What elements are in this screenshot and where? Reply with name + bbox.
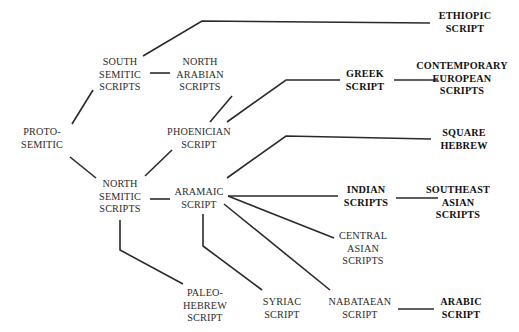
- node-label-line: SCRIPT: [437, 309, 485, 322]
- node-label-line: PROTO-: [14, 126, 70, 139]
- node-label-line: SOUTHEAST: [423, 184, 493, 197]
- node-proto-semitic: PROTO-SEMITIC: [14, 126, 70, 151]
- node-label-line: NORTH: [93, 178, 147, 191]
- node-label-line: HEBREW: [433, 140, 495, 153]
- node-label-line: SCRIPT: [180, 312, 230, 325]
- node-label-line: SEMITIC: [14, 139, 70, 152]
- edge-aramaic-to-square-hebrew: [227, 136, 431, 178]
- node-aramaic-script: ARAMAICSCRIPT: [172, 186, 226, 211]
- node-square-hebrew: SQUAREHEBREW: [433, 127, 495, 152]
- node-south-semitic-scripts: SOUTHSEMITICSCRIPTS: [93, 56, 147, 94]
- node-label-line: ARAMAIC: [172, 186, 226, 199]
- node-label-line: SCRIPTS: [93, 203, 147, 216]
- script-genealogy-diagram: PROTO-SEMITICSOUTHSEMITICSCRIPTSNORTHARA…: [0, 0, 519, 332]
- edge-north-arabian-to-phoenician: [210, 96, 232, 122]
- node-north-arabian-scripts: NORTHARABIANSCRIPTS: [172, 56, 228, 94]
- node-label-line: PHOENICIAN: [163, 126, 235, 139]
- edge-aramaic-to-nabataean: [224, 204, 330, 290]
- edge-phoenician-to-greek: [227, 80, 340, 122]
- node-label-line: SCRIPT: [432, 23, 498, 36]
- node-label-line: SCRIPT: [163, 139, 235, 152]
- node-arabic-script: ARABICSCRIPT: [437, 296, 485, 321]
- node-label-line: SCRIPTS: [172, 81, 228, 94]
- node-label-line: SCRIPTS: [423, 209, 493, 222]
- node-label-line: SEMITIC: [93, 69, 147, 82]
- edge-north-semitic-to-phoenician: [145, 150, 172, 176]
- node-ethiopic-script: ETHIOPICSCRIPT: [432, 10, 498, 35]
- node-label-line: CENTRAL: [335, 230, 391, 243]
- node-label-line: SOUTH: [93, 56, 147, 69]
- edge-aramaic-to-central-asian: [228, 196, 334, 238]
- node-label-line: NABATAEAN: [327, 296, 393, 309]
- node-label-line: PALEO-: [180, 287, 230, 300]
- node-label-line: ASIAN: [423, 197, 493, 210]
- node-paleo-hebrew-script: PALEO-HEBREWSCRIPT: [180, 287, 230, 325]
- node-label-line: SCRIPT: [341, 81, 389, 94]
- connector-layer: [0, 0, 519, 332]
- node-label-line: INDIAN: [340, 184, 392, 197]
- node-north-semitic-scripts: NORTHSEMITICSCRIPTS: [93, 178, 147, 216]
- node-label-line: SYRIAC: [259, 296, 305, 309]
- node-label-line: CONTEMPORARY: [412, 60, 512, 73]
- edge-north-semitic-to-paleo-hebrew: [120, 220, 183, 284]
- node-label-line: SCRIPT: [172, 199, 226, 212]
- node-greek-script: GREEKSCRIPT: [341, 68, 389, 93]
- node-label-line: SCRIPT: [327, 309, 393, 322]
- node-label-line: ETHIOPIC: [432, 10, 498, 23]
- node-label-line: EUROPEAN: [412, 73, 512, 86]
- node-label-line: ARABIC: [437, 296, 485, 309]
- node-label-line: SCRIPTS: [93, 81, 147, 94]
- edge-south-semitic-to-ethiopic: [143, 21, 430, 56]
- node-label-line: GREEK: [341, 68, 389, 81]
- node-phoenician-script: PHOENICIANSCRIPT: [163, 126, 235, 151]
- node-label-line: SCRIPTS: [340, 197, 392, 210]
- edge-aramaic-to-syriac: [203, 214, 262, 290]
- node-label-line: SCRIPTS: [335, 255, 391, 268]
- node-syriac-script: SYRIACSCRIPT: [259, 296, 305, 321]
- node-label-line: SCRIPTS: [412, 85, 512, 98]
- edge-proto-to-south-semitic: [72, 90, 93, 124]
- node-label-line: SCRIPT: [259, 309, 305, 322]
- node-label-line: SEMITIC: [93, 191, 147, 204]
- node-central-asian-scripts: CENTRALASIANSCRIPTS: [335, 230, 391, 268]
- node-label-line: HEBREW: [180, 300, 230, 313]
- node-indian-scripts: INDIANSCRIPTS: [340, 184, 392, 209]
- node-southeast-asian-scripts: SOUTHEASTASIANSCRIPTS: [423, 184, 493, 222]
- node-label-line: ARABIAN: [172, 69, 228, 82]
- node-label-line: SQUARE: [433, 127, 495, 140]
- node-nabataean-script: NABATAEANSCRIPT: [327, 296, 393, 321]
- node-contemporary-european-scripts: CONTEMPORARYEUROPEANSCRIPTS: [412, 60, 512, 98]
- edge-proto-to-north-semitic: [70, 157, 96, 178]
- node-label-line: ASIAN: [335, 243, 391, 256]
- node-label-line: NORTH: [172, 56, 228, 69]
